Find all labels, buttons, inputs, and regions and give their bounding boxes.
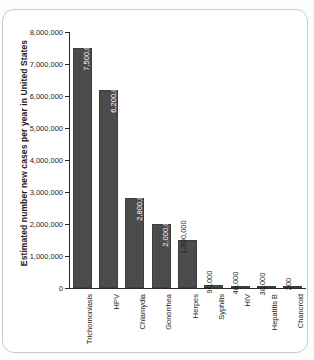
y-axis-tick: [65, 32, 69, 33]
x-axis-category-label: Chancroid: [296, 294, 305, 328]
x-axis-category-label: HPV: [112, 294, 121, 309]
plot-area: 8,000,0007,000,0006,000,0005,000,0004,00…: [69, 32, 306, 288]
x-axis-category-label: Syphilis: [217, 294, 226, 320]
chart-card: Estimated number new cases per year in U…: [2, 9, 308, 353]
bar-group: 2,800,000: [125, 198, 144, 288]
y-axis-tick-label: 4,000,000: [30, 156, 63, 165]
bar-value-label: 200: [284, 278, 293, 291]
x-axis-category-label: Chlamydia: [138, 294, 147, 329]
y-axis-tick: [65, 160, 69, 161]
bar-value-label: 2,000,000: [161, 213, 170, 246]
y-axis-tick-label: 3,000,000: [30, 188, 63, 197]
bar-group: 2,000,000: [152, 224, 171, 288]
bar-group: 90,000: [204, 285, 223, 288]
y-axis-tick: [65, 96, 69, 97]
bar[interactable]: [73, 48, 92, 288]
bar-value-label: 1,500,000: [179, 220, 188, 253]
y-axis-tick-label: 0: [59, 284, 63, 293]
y-axis-tick: [65, 256, 69, 257]
x-axis-line: [69, 288, 306, 289]
bar-value-label: 7,500,000: [82, 37, 91, 70]
bar-value-label: 38,000: [258, 272, 267, 295]
y-axis-tick: [65, 224, 69, 225]
y-axis-title: Estimated number new cases per year in U…: [19, 38, 29, 268]
x-axis-category-label: Gonorrhea: [164, 294, 173, 330]
bar-group: 1,500,000: [178, 240, 197, 288]
y-axis-tick: [65, 288, 69, 289]
bar-group: 7,500,000: [73, 48, 92, 288]
bar-group: 6,200,000: [99, 90, 118, 288]
x-axis-category-label: Trichomoniasis: [85, 294, 94, 344]
x-axis-category-label: HIV: [243, 294, 252, 307]
y-axis-tick-label: 2,000,000: [30, 220, 63, 229]
bar-value-label: 6,200,000: [109, 79, 118, 112]
bar-value-label: 90,000: [205, 271, 214, 294]
bar-value-label: 48,000: [231, 272, 240, 295]
y-axis-tick: [65, 192, 69, 193]
bar[interactable]: [99, 90, 118, 288]
y-axis-tick-label: 6,000,000: [30, 92, 63, 101]
y-axis-line: [69, 32, 70, 289]
y-axis-tick-label: 7,000,000: [30, 60, 63, 69]
bar-group: 48,000: [231, 286, 250, 288]
y-axis-tick-label: 5,000,000: [30, 124, 63, 133]
x-axis-category-label: Herpes: [191, 294, 200, 318]
y-axis-tick-label: 8,000,000: [30, 28, 63, 37]
screenshot-root: Estimated number new cases per year in U…: [0, 0, 314, 360]
bar-value-label: 2,800,000: [135, 188, 144, 221]
bar-group: 200: [283, 287, 302, 288]
y-axis-tick-label: 1,000,000: [30, 252, 63, 261]
y-axis-tick: [65, 128, 69, 129]
bar-group: 38,000: [257, 287, 276, 288]
y-axis-tick: [65, 64, 69, 65]
x-axis-category-label: Hepatitis B: [270, 294, 279, 330]
